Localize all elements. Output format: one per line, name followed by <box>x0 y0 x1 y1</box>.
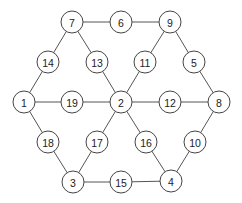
node-label: 1 <box>21 97 27 109</box>
node-11: 11 <box>134 51 156 73</box>
node-15: 15 <box>110 171 132 193</box>
node-label: 17 <box>91 137 103 149</box>
node-3: 3 <box>62 171 84 193</box>
node-6: 6 <box>110 11 132 33</box>
node-label: 10 <box>189 137 201 149</box>
node-8: 8 <box>208 91 230 113</box>
node-label: 6 <box>118 17 124 29</box>
node-label: 13 <box>91 57 103 69</box>
node-16: 16 <box>135 131 157 153</box>
node-14: 14 <box>37 51 59 73</box>
node-12: 12 <box>159 91 181 113</box>
node-label: 15 <box>115 177 127 189</box>
node-9: 9 <box>159 11 181 33</box>
node-label: 14 <box>42 57 54 69</box>
magic-hexagon-diagram: 76914131151192128181716103154 <box>0 0 242 203</box>
node-label: 2 <box>118 97 124 109</box>
node-label: 7 <box>69 17 75 29</box>
node-10: 10 <box>184 131 206 153</box>
node-2: 2 <box>110 91 132 113</box>
node-label: 5 <box>191 57 197 69</box>
node-19: 19 <box>61 91 83 113</box>
node-label: 8 <box>216 97 222 109</box>
node-4: 4 <box>160 170 182 192</box>
node-17: 17 <box>86 131 108 153</box>
node-label: 12 <box>164 97 176 109</box>
node-label: 18 <box>42 137 54 149</box>
node-5: 5 <box>183 51 205 73</box>
node-label: 16 <box>140 137 152 149</box>
node-label: 4 <box>168 176 174 188</box>
node-7: 7 <box>61 11 83 33</box>
node-label: 19 <box>66 97 78 109</box>
node-1: 1 <box>13 91 35 113</box>
node-18: 18 <box>37 131 59 153</box>
node-13: 13 <box>86 51 108 73</box>
node-label: 3 <box>70 177 76 189</box>
node-label: 11 <box>140 57 151 69</box>
node-label: 9 <box>167 17 173 29</box>
